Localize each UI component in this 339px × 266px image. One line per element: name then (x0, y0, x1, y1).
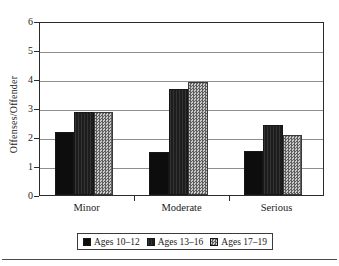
bar-group-moderate (134, 23, 228, 195)
bar-group-serious (229, 23, 323, 195)
legend-swatch-icon-1 (147, 238, 155, 246)
y-tick-mark (34, 51, 39, 52)
bar-minor-series-0 (55, 132, 75, 195)
x-axis-labels: MinorModerateSerious (39, 201, 324, 217)
y-tick-label: 1 (28, 162, 33, 172)
bar-moderate-series-1 (169, 89, 189, 195)
y-tick-mark (34, 22, 39, 23)
legend-entry-2: Ages 17–19 (210, 237, 267, 247)
x-tick-label-moderate: Moderate (161, 201, 201, 215)
legend-entry-1: Ages 13–16 (147, 237, 204, 247)
bar-serious-series-2 (283, 135, 303, 195)
x-tick-label-minor: Minor (73, 201, 99, 215)
bars-layer (40, 23, 323, 195)
legend-label-1: Ages 13–16 (158, 237, 204, 247)
bar-moderate-series-0 (149, 152, 169, 195)
legend-label-0: Ages 10–12 (94, 237, 140, 247)
y-tick-mark (34, 80, 39, 81)
y-tick-mark (34, 109, 39, 110)
bar-minor-series-2 (94, 112, 114, 195)
x-tick-label-serious: Serious (261, 201, 293, 215)
y-tick-mark (34, 196, 39, 197)
bar-group-minor (40, 23, 134, 195)
y-tick-label: 6 (28, 17, 33, 27)
y-tick-label: 5 (28, 46, 33, 56)
legend-swatch-icon-2 (210, 238, 218, 246)
bar-chart-figure: Offenses/Offender 0123456 MinorModerateS… (0, 0, 339, 266)
legend-entry-0: Ages 10–12 (83, 237, 140, 247)
y-tick-label: 4 (28, 75, 33, 85)
bar-serious-series-1 (263, 125, 283, 195)
y-tick-label: 3 (28, 104, 33, 114)
legend-label-2: Ages 17–19 (221, 237, 267, 247)
y-tick-mark (34, 138, 39, 139)
y-tick-mark (34, 167, 39, 168)
y-axis-title: Offenses/Offender (8, 55, 19, 175)
y-tick-label: 0 (28, 191, 33, 201)
chart-legend: Ages 10–12Ages 13–16Ages 17–19 (77, 233, 273, 250)
bar-serious-series-0 (244, 151, 264, 195)
legend-swatch-icon-0 (83, 238, 91, 246)
bar-moderate-series-2 (188, 82, 208, 195)
bar-minor-series-1 (74, 112, 94, 195)
page-divider (2, 259, 337, 260)
y-tick-label: 2 (28, 133, 33, 143)
